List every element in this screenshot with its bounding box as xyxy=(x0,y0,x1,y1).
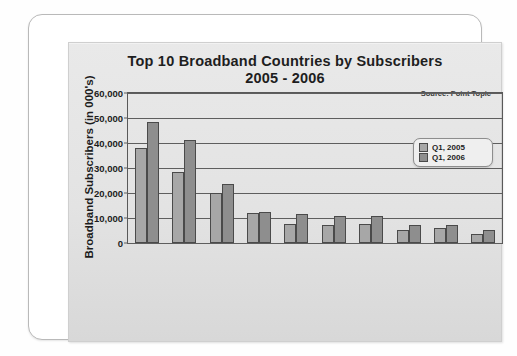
gridline xyxy=(128,243,502,244)
bar[interactable] xyxy=(222,184,234,243)
chart-title: Top 10 Broadband Countries by Subscriber… xyxy=(69,53,501,87)
legend-label: Q1, 2005 xyxy=(432,143,465,152)
bar[interactable] xyxy=(135,148,147,243)
bar-group xyxy=(465,93,502,243)
chart-title-line1: Top 10 Broadband Countries by Subscriber… xyxy=(128,53,443,69)
bar[interactable] xyxy=(210,193,222,243)
bar[interactable] xyxy=(322,225,334,243)
bar-group xyxy=(315,93,352,243)
y-tick-label: 40,000 xyxy=(94,138,123,149)
bar-group xyxy=(427,93,464,243)
bar[interactable] xyxy=(371,216,383,243)
chart-page: Top 10 Broadband Countries by Subscriber… xyxy=(0,0,517,356)
y-tick-label: 30,000 xyxy=(94,163,123,174)
bar[interactable] xyxy=(184,140,196,243)
bar[interactable] xyxy=(147,122,159,243)
chart-legend[interactable]: Q1, 2005 Q1, 2006 xyxy=(413,138,493,167)
legend-swatch-icon xyxy=(419,153,428,162)
bar-group xyxy=(203,93,240,243)
legend-label: Q1, 2006 xyxy=(432,153,465,162)
bar[interactable] xyxy=(483,230,495,243)
bar-group xyxy=(390,93,427,243)
chart-card: Top 10 Broadband Countries by Subscriber… xyxy=(28,14,482,340)
plot-area: 010,00020,00030,00040,00050,00060,000 xyxy=(127,92,503,244)
bar-group xyxy=(352,93,389,243)
bar[interactable] xyxy=(172,172,184,243)
y-tick-label: 50,000 xyxy=(94,113,123,124)
bar[interactable] xyxy=(247,213,259,243)
y-tick-label: 10,000 xyxy=(94,213,123,224)
bar-group xyxy=(240,93,277,243)
bar[interactable] xyxy=(446,225,458,243)
bar[interactable] xyxy=(334,216,346,243)
bar-group xyxy=(128,93,165,243)
bar[interactable] xyxy=(359,224,371,243)
bar[interactable] xyxy=(284,224,296,243)
bar[interactable] xyxy=(259,212,271,243)
y-tick-label: 20,000 xyxy=(94,188,123,199)
chart-subtitle: 2005 - 2006 xyxy=(69,70,501,87)
bar[interactable] xyxy=(434,228,446,243)
legend-swatch-icon xyxy=(419,143,428,152)
y-tick-label: 60,000 xyxy=(94,88,123,99)
legend-item-q1-2005[interactable]: Q1, 2005 xyxy=(419,143,487,152)
bar[interactable] xyxy=(471,234,483,243)
y-tick-label: 0 xyxy=(118,238,123,249)
chart-panel: Top 10 Broadband Countries by Subscriber… xyxy=(68,42,502,342)
bar[interactable] xyxy=(397,230,409,243)
bar-group xyxy=(165,93,202,243)
bar[interactable] xyxy=(296,214,308,243)
bar-groups xyxy=(128,93,502,243)
bar-group xyxy=(278,93,315,243)
bar[interactable] xyxy=(409,225,421,243)
legend-item-q1-2006[interactable]: Q1, 2006 xyxy=(419,153,487,162)
